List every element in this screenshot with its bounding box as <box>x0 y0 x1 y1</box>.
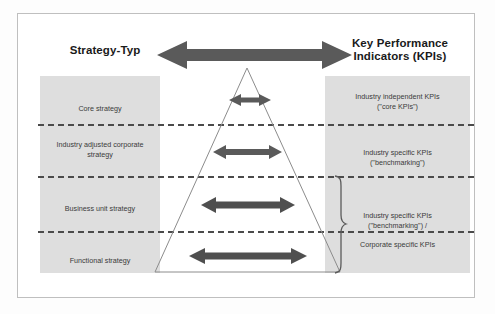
kpi-label-industry-independent-line2: ("core KPIs") <box>325 102 470 112</box>
strategy-label-industry-adjusted: Industry adjusted corporate strategy <box>40 140 160 159</box>
strategy-label-industry-adjusted-line1: Industry adjusted corporate <box>40 140 160 150</box>
kpi-column-title-line2: Indicators (KPIs) <box>330 50 470 63</box>
diagram-root: Strategy-Typ Key Performance Indicators … <box>0 0 495 314</box>
kpi-label-industry-specific-line2: ("benchmarking") <box>325 158 470 168</box>
strategy-label-functional: Functional strategy <box>40 256 160 266</box>
strategy-label-industry-adjusted-line2: strategy <box>40 150 160 160</box>
divider-core-industry <box>38 124 474 126</box>
kpi-column-title-line1: Key Performance <box>330 37 470 50</box>
kpi-label-grouped-benchmarking: Industry specific KPIs ("benchmarking") … <box>325 211 470 230</box>
strategy-label-business-unit: Business unit strategy <box>40 204 160 214</box>
kpi-label-industry-independent: Industry independent KPIs ("core KPIs") <box>325 92 470 111</box>
strategy-label-core: Core strategy <box>40 104 160 114</box>
kpi-label-industry-specific: Industry specific KPIs ("benchmarking") <box>325 148 470 167</box>
kpi-label-corporate-specific: Corporate specific KPIs <box>325 240 470 250</box>
divider-business-functional <box>38 231 474 233</box>
kpi-label-grouped-line2: ("benchmarking") / <box>325 221 470 231</box>
kpi-label-grouped-line1: Industry specific KPIs <box>325 211 470 221</box>
kpi-label-industry-independent-line1: Industry independent KPIs <box>325 92 470 102</box>
kpi-label-industry-specific-line1: Industry specific KPIs <box>325 148 470 158</box>
kpi-column-title: Key Performance Indicators (KPIs) <box>330 37 470 63</box>
divider-industry-business <box>38 176 474 178</box>
strategy-column-title: Strategy-Typ <box>40 44 170 57</box>
